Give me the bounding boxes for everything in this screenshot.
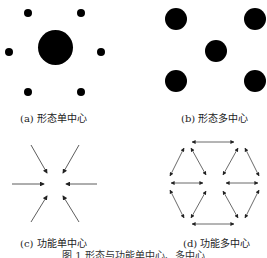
panel-b-morphological-polycentric: (b) 形态多中心 — [133, 0, 267, 125]
satellite-node — [97, 48, 105, 56]
satellite-node — [77, 88, 85, 96]
satellite-node — [24, 88, 32, 96]
center-node — [244, 8, 266, 30]
panel-a-caption: (a) 形态单中心 — [20, 110, 87, 125]
panel-b-caption: (b) 形态多中心 — [181, 110, 248, 125]
panel-d-caption: (d) 功能多中心 — [183, 235, 250, 250]
figure-caption: 图 1 形态与功能单中心、多中心 — [62, 249, 205, 258]
panel-c-functional-monocentric: (c) 功能单中心 — [0, 130, 133, 248]
center-node — [165, 8, 187, 30]
satellite-node — [24, 9, 32, 17]
panel-c-caption: (c) 功能单中心 — [20, 235, 87, 250]
center-node — [244, 70, 266, 92]
converging-arrows-icon — [0, 130, 133, 248]
center-node — [205, 40, 227, 62]
bidirectional-network-icon — [133, 130, 267, 248]
panel-a-morphological-monocentric: (a) 形态单中心 — [0, 0, 133, 125]
center-node — [165, 70, 187, 92]
satellite-node — [5, 48, 13, 56]
satellite-node — [77, 9, 85, 17]
large-center-node — [38, 30, 73, 65]
panel-d-functional-polycentric: (d) 功能多中心 — [133, 130, 267, 248]
